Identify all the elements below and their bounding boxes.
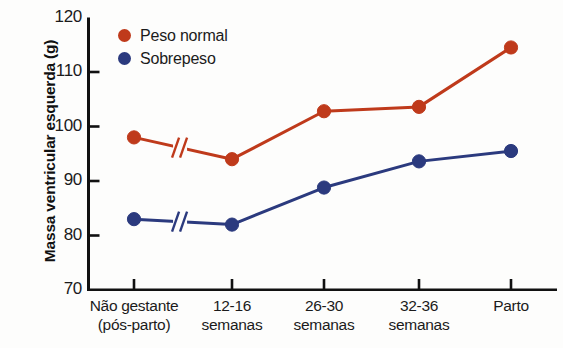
x-tick-label-line1: 32-36	[400, 297, 438, 314]
y-axis-tick-label: 110	[38, 61, 82, 81]
y-axis-ticks	[89, 72, 100, 236]
data-point	[504, 144, 517, 157]
chart-figure: Massa ventricular esquerda (g) 120110100…	[0, 0, 563, 348]
x-axis-tick-labels: Não gestante(pós-parto)12-16semanas26-30…	[60, 294, 563, 348]
data-point	[317, 181, 330, 194]
data-point	[127, 213, 140, 226]
y-axis-tick-label: 90	[38, 170, 82, 190]
x-tick-label-line1: Não gestante	[90, 297, 179, 314]
legend-label: Peso normal	[140, 27, 228, 45]
legend-entry-peso-normal: Peso normal	[118, 24, 318, 47]
legend-label: Sobrepeso	[140, 50, 216, 68]
data-point	[317, 105, 330, 118]
x-axis-tick-label: Parto	[451, 296, 563, 315]
y-axis-tick-label: 80	[38, 225, 82, 245]
data-point	[412, 100, 425, 113]
axis-break-marks	[172, 135, 187, 235]
y-axis-tick-label: 100	[38, 116, 82, 136]
data-point	[225, 218, 238, 231]
data-point	[127, 131, 140, 144]
x-tick-label-line1: 26-30	[305, 297, 343, 314]
data-point	[225, 153, 238, 166]
legend-entry-sobrepeso: Sobrepeso	[118, 47, 318, 70]
x-tick-label-line1: Parto	[493, 297, 529, 314]
y-axis-tick-label: 120	[38, 7, 82, 27]
series-lines	[134, 47, 511, 224]
legend-marker-icon	[118, 29, 131, 42]
legend-marker-icon	[118, 52, 131, 65]
data-point	[504, 41, 517, 54]
x-tick-label-line1: 12-16	[213, 297, 251, 314]
data-point	[412, 155, 425, 168]
x-axis-ticks	[134, 279, 511, 290]
chart-legend: Peso normal Sobrepeso	[118, 24, 318, 70]
x-tick-label-line2: semanas	[359, 315, 479, 334]
